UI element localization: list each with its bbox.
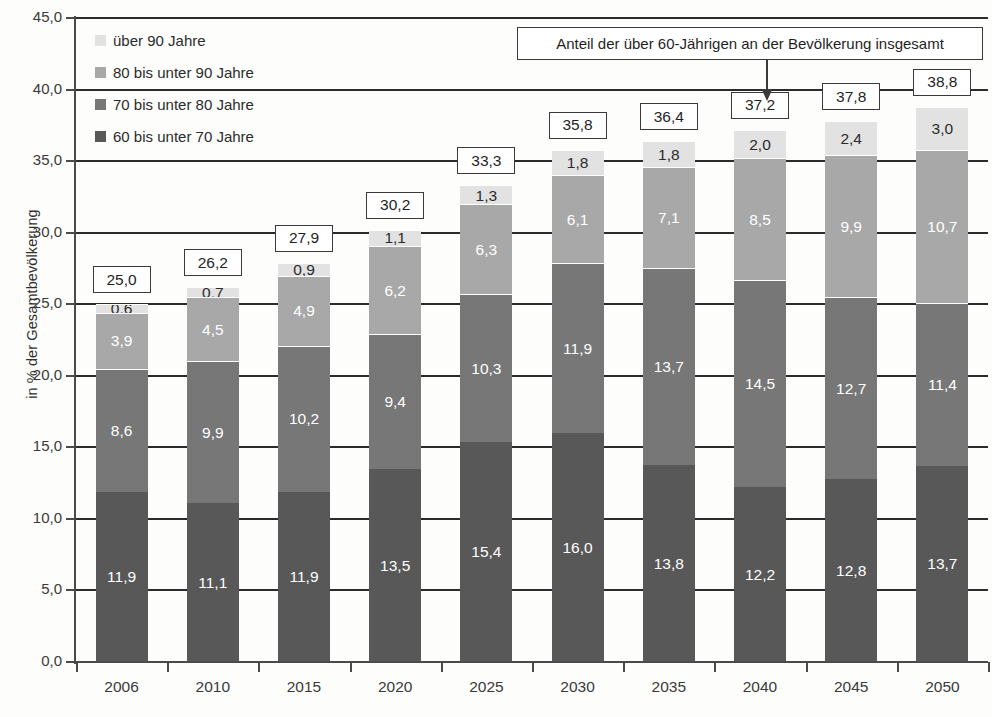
bar-segment[interactable]: 3,0 — [916, 107, 968, 150]
x-axis-tick — [806, 662, 808, 672]
bar-segment-value: 9,4 — [384, 394, 406, 410]
bar-segment[interactable]: 6,3 — [460, 204, 512, 294]
bar-segment-value: 4,5 — [202, 322, 224, 338]
bar-segment-value: 1,8 — [567, 155, 589, 171]
bar-2006[interactable]: 11,98,63,90,6 — [96, 304, 148, 662]
legend-item-2[interactable]: 70 bis unter 80 Jahre — [95, 88, 345, 120]
bar-segment[interactable]: 9,9 — [187, 361, 239, 503]
x-axis-tick — [167, 662, 169, 672]
bar-2045[interactable]: 12,812,79,92,4 — [825, 121, 877, 662]
bar-segment-value: 8,6 — [111, 423, 133, 439]
legend: über 90 Jahre80 bis unter 90 Jahre70 bis… — [95, 24, 345, 152]
y-axis-tick-label: 5,0 — [8, 580, 62, 597]
bar-segment-value: 9,9 — [202, 425, 224, 441]
bar-segment[interactable]: 2,4 — [825, 121, 877, 155]
x-axis-tick — [441, 662, 443, 672]
bar-segment[interactable]: 11,1 — [187, 503, 239, 662]
bar-segment[interactable]: 11,9 — [96, 492, 148, 662]
bar-segment-value: 13,5 — [380, 558, 410, 574]
x-axis-tick — [897, 662, 899, 672]
bar-segment[interactable]: 11,9 — [552, 263, 604, 433]
bar-segment[interactable]: 10,3 — [460, 294, 512, 441]
bar-segment-value: 2,4 — [840, 131, 862, 147]
bar-segment[interactable]: 12,8 — [825, 479, 877, 662]
annotation-callout: Anteil der über 60-Jährigen an der Bevöl… — [517, 27, 983, 60]
bar-segment[interactable]: 9,4 — [369, 334, 421, 469]
total-label-2010: 26,2 — [184, 249, 242, 276]
bar-segment[interactable]: 8,5 — [734, 158, 786, 280]
bar-segment[interactable]: 11,4 — [916, 303, 968, 466]
x-axis-tick — [532, 662, 534, 672]
bar-segment[interactable]: 0,6 — [96, 304, 148, 313]
bar-segment[interactable]: 8,6 — [96, 369, 148, 492]
gridline — [76, 17, 988, 19]
bar-segment[interactable]: 1,8 — [643, 141, 695, 167]
bar-2015[interactable]: 11,910,24,90,9 — [278, 263, 330, 662]
bar-segment[interactable]: 0,9 — [278, 263, 330, 276]
bar-segment-value: 6,1 — [567, 212, 589, 228]
legend-swatch-icon — [95, 99, 106, 110]
bar-segment[interactable]: 13,7 — [643, 268, 695, 464]
bar-segment-value: 2,0 — [749, 137, 771, 153]
bar-segment[interactable]: 1,3 — [460, 185, 512, 204]
bar-segment[interactable]: 15,4 — [460, 442, 512, 662]
bar-segment[interactable]: 7,1 — [643, 167, 695, 269]
legend-item-1[interactable]: 80 bis unter 90 Jahre — [95, 56, 345, 88]
bar-segment-value: 11,9 — [289, 569, 318, 585]
bar-segment-value: 7,1 — [658, 210, 680, 226]
bar-segment[interactable]: 10,2 — [278, 346, 330, 492]
bar-segment[interactable]: 11,9 — [278, 492, 330, 662]
x-axis-label-2045: 2045 — [811, 678, 891, 696]
bar-2020[interactable]: 13,59,46,21,1 — [369, 230, 421, 662]
bar-segment[interactable]: 13,5 — [369, 469, 421, 662]
bar-2010[interactable]: 11,19,94,50,7 — [187, 287, 239, 662]
bar-segment[interactable]: 3,9 — [96, 313, 148, 369]
bar-2030[interactable]: 16,011,96,11,8 — [552, 150, 604, 662]
bar-segment-value: 15,4 — [471, 544, 501, 560]
y-axis-tick — [66, 160, 76, 162]
bar-segment[interactable]: 1,8 — [552, 150, 604, 176]
bar-2040[interactable]: 12,214,58,52,0 — [734, 130, 786, 662]
bar-segment[interactable]: 12,7 — [825, 297, 877, 479]
bar-segment[interactable]: 2,0 — [734, 130, 786, 159]
bar-2025[interactable]: 15,410,36,31,3 — [460, 185, 512, 662]
y-axis-tick-label: 45,0 — [8, 8, 62, 25]
bar-segment-value: 13,8 — [654, 556, 684, 572]
bar-segment[interactable]: 6,1 — [552, 175, 604, 262]
bar-segment-value: 12,2 — [745, 567, 775, 583]
bar-segment-value: 4,9 — [293, 303, 315, 319]
bar-segment-value: 1,8 — [658, 147, 680, 163]
legend-swatch-icon — [95, 131, 106, 142]
total-label-2045: 37,8 — [822, 83, 880, 110]
bar-2050[interactable]: 13,711,410,73,0 — [916, 107, 968, 662]
bar-segment[interactable]: 4,5 — [187, 297, 239, 361]
stacked-bar-chart: in % der Gesamtbevölkerung 0,05,010,015,… — [0, 0, 992, 717]
bar-segment[interactable]: 4,9 — [278, 276, 330, 346]
bar-segment[interactable]: 9,9 — [825, 155, 877, 297]
bar-segment-value: 0,6 — [111, 304, 133, 313]
bar-segment[interactable]: 6,2 — [369, 246, 421, 335]
legend-item-3[interactable]: 60 bis unter 70 Jahre — [95, 120, 345, 152]
bar-segment[interactable]: 13,8 — [643, 465, 695, 662]
x-axis-tick — [714, 662, 716, 672]
total-label-2050: 38,8 — [913, 69, 971, 96]
y-axis-tick — [66, 232, 76, 234]
y-axis-tick — [66, 589, 76, 591]
bar-segment[interactable]: 1,1 — [369, 230, 421, 246]
bar-segment[interactable]: 10,7 — [916, 150, 968, 303]
bar-segment-value: 11,4 — [928, 377, 957, 393]
bar-2035[interactable]: 13,813,77,11,8 — [643, 141, 695, 662]
legend-item-label: 70 bis unter 80 Jahre — [113, 96, 254, 113]
total-label-2025: 33,3 — [457, 147, 515, 174]
x-axis-label-2020: 2020 — [355, 678, 435, 696]
x-axis-label-2025: 2025 — [446, 678, 526, 696]
bar-segment[interactable]: 14,5 — [734, 280, 786, 488]
bar-segment-value: 13,7 — [927, 556, 957, 572]
bar-segment[interactable]: 13,7 — [916, 466, 968, 662]
bar-segment[interactable]: 16,0 — [552, 433, 604, 662]
bar-segment[interactable]: 0,7 — [187, 287, 239, 297]
y-axis-tick-label: 30,0 — [8, 223, 62, 240]
y-axis-tick-label: 15,0 — [8, 437, 62, 454]
bar-segment[interactable]: 12,2 — [734, 487, 786, 662]
legend-item-0[interactable]: über 90 Jahre — [95, 24, 345, 56]
